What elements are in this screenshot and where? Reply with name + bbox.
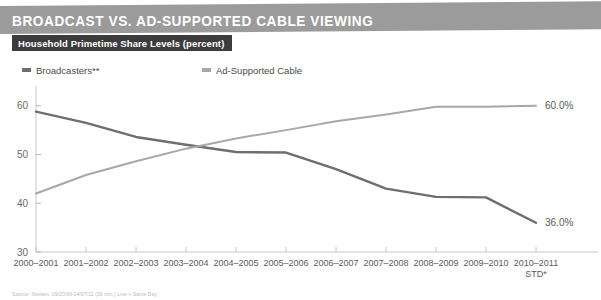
- subtitle-text: Household Primetime Share Levels (percen…: [18, 38, 224, 49]
- x-axis-tick-label: 2009–2010: [463, 258, 508, 268]
- legend-item-broadcasters: Broadcasters**: [22, 63, 202, 77]
- x-axis-tick-label: 2010–2011: [514, 258, 558, 268]
- series-line-ad-supported-cable: [36, 106, 536, 194]
- legend-label-broadcasters: Broadcasters**: [36, 65, 99, 76]
- legend-label-ad-supported-cable: Ad-Supported Cable: [216, 65, 302, 76]
- x-axis-tick-label: 2000–2001: [13, 258, 58, 268]
- chart-legend: Broadcasters** Ad-Supported Cable: [22, 63, 302, 77]
- series-line-broadcasters: [36, 112, 536, 223]
- x-axis-tick-label: 2007–2008: [363, 258, 408, 268]
- legend-swatch-ad-supported-cable: [202, 68, 211, 72]
- y-axis-tick-label: 60: [17, 100, 29, 111]
- x-axis-tick-label: 2004–2005: [213, 258, 258, 268]
- y-axis-tick-label: 30: [17, 247, 29, 258]
- x-axis-tick-label: 2002–2003: [113, 258, 158, 268]
- subtitle-bar: Household Primetime Share Levels (percen…: [12, 35, 232, 51]
- y-axis-tick-label: 50: [17, 149, 29, 160]
- legend-swatch-broadcasters: [22, 68, 31, 72]
- legend-item-ad-supported-cable: Ad-Supported Cable: [202, 63, 302, 77]
- x-axis-tick-label: 2006–2007: [313, 258, 358, 268]
- chart-footnote: Source: Nielsen, 09/20/99-04/07/11 (30 m…: [12, 291, 592, 297]
- x-axis-tick-label: 2005–2006: [263, 258, 308, 268]
- series-end-label-ad-supported-cable: 60.0%: [545, 100, 573, 111]
- x-axis-tick-label: 2003–2004: [163, 258, 208, 268]
- page-title: BROADCAST VS. AD-SUPPORTED CABLE VIEWING: [12, 10, 416, 32]
- x-axis-tick-label: STD*: [525, 269, 547, 279]
- x-axis-tick-label: 2008–2009: [413, 258, 458, 268]
- series-end-label-broadcasters: 36.0%: [545, 217, 573, 228]
- x-axis-tick-label: 2001–2002: [63, 258, 108, 268]
- y-axis-tick-label: 40: [17, 198, 29, 209]
